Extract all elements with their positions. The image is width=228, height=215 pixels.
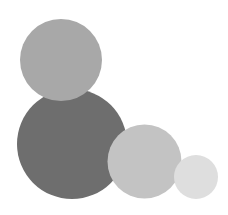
medium-circle xyxy=(108,125,182,199)
small-circle xyxy=(174,155,218,199)
dark-circle xyxy=(17,89,127,199)
circles-illustration xyxy=(0,0,228,215)
top-circle xyxy=(20,19,102,101)
circles-graphic xyxy=(0,0,228,215)
